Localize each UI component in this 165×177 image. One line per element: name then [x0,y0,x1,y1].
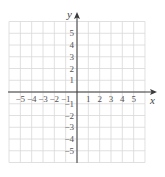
x-tick-label: 5 [131,94,136,104]
coordinate-plane: x y −5−4−3−2−112345 54321−1−2−3−4−5 [0,0,165,177]
x-tick-label: −4 [27,94,37,104]
x-tick-label: −2 [50,94,60,104]
y-tick-label: −1 [64,99,74,109]
y-tick-label: −4 [64,134,74,144]
x-axis-label: x [149,94,155,106]
y-tick-label: −2 [64,111,74,121]
y-tick-label: 2 [70,64,75,74]
y-tick-label: 3 [70,52,75,62]
x-tick-label: 4 [120,94,125,104]
x-tick-label: −5 [16,94,26,104]
y-tick-label: 1 [70,75,75,85]
x-tick-label: −3 [38,94,48,104]
y-tick-label: 4 [70,40,75,50]
x-tick-labels: −5−4−3−2−112345 [16,94,137,104]
y-tick-label: 5 [70,28,75,38]
y-axis-label: y [66,8,72,20]
y-tick-label: −5 [64,146,74,156]
x-tick-label: 1 [86,94,91,104]
y-tick-label: −3 [64,122,74,132]
x-tick-label: 3 [109,94,114,104]
x-tick-label: 2 [97,94,102,104]
